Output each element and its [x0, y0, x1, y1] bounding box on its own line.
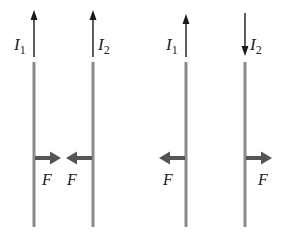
force-arrow-right-icon [35, 152, 61, 165]
current-label-i1: I1 [13, 35, 26, 57]
force-label-1: F [41, 171, 52, 188]
current-arrow-down-icon [242, 13, 249, 56]
force-arrow-left-icon [66, 152, 92, 165]
panel-parallel-currents: I1 I2 F F [13, 10, 110, 227]
force-label-2: F [66, 171, 77, 188]
wire-2 [92, 62, 95, 227]
current-arrow-up-icon [90, 10, 97, 57]
current-arrow-up-icon [183, 14, 190, 57]
wire-1 [33, 62, 36, 227]
current-label-i1: I1 [165, 35, 178, 57]
force-arrow-right-icon [246, 152, 272, 165]
current-label-i2: I2 [249, 35, 262, 57]
current-arrow-up-icon [31, 10, 38, 57]
wire-4 [244, 62, 247, 227]
parallel-wires-force-diagram: I1 I2 F F I1 [0, 0, 287, 234]
current-label-i2: I2 [97, 35, 110, 57]
force-label-3: F [162, 171, 173, 188]
wire-3 [185, 62, 188, 227]
panel-antiparallel-currents: I1 I2 F F [159, 13, 272, 227]
force-arrow-left-icon [159, 152, 185, 165]
force-label-4: F [257, 171, 268, 188]
